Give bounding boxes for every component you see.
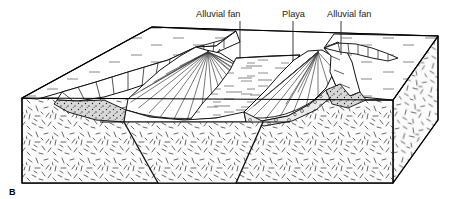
geology-block-diagram-svg: Alluvial fan Playa Alluvial fan B: [0, 0, 455, 199]
alluvial-fan-right-text: Alluvial fan: [327, 9, 371, 19]
playa-text: Playa: [282, 9, 306, 19]
block-diagram-figure: Alluvial fan Playa Alluvial fan B: [0, 0, 455, 199]
panel-label: B: [9, 187, 16, 197]
alluvial-fan-left-text: Alluvial fan: [196, 9, 240, 19]
